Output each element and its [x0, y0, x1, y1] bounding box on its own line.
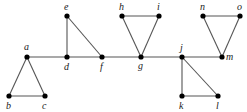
edge-g-h [122, 16, 141, 57]
node-label-c: c [42, 100, 47, 111]
node-j [179, 54, 184, 59]
node-label-h: h [119, 1, 124, 12]
node-label-m: m [226, 51, 233, 62]
node-h [119, 13, 124, 18]
edge-a-b [9, 57, 27, 96]
edge-j-l [182, 57, 218, 96]
edge-g-i [141, 16, 159, 57]
node-label-a: a [24, 41, 29, 52]
node-label-n: n [200, 1, 205, 12]
node-k [179, 93, 184, 98]
node-label-f: f [100, 61, 104, 72]
node-a [24, 54, 29, 59]
node-g [138, 54, 143, 59]
node-label-j: j [178, 42, 183, 53]
node-f [99, 54, 104, 59]
edges-group [9, 16, 240, 96]
node-l [215, 93, 220, 98]
edge-m-n [203, 16, 222, 57]
node-b [6, 93, 11, 98]
node-label-d: d [64, 61, 70, 72]
node-label-k: k [179, 100, 184, 111]
node-o [237, 13, 242, 18]
edge-a-c [27, 57, 45, 96]
node-label-e: e [64, 1, 69, 12]
node-label-i: i [157, 1, 160, 12]
node-label-l: l [216, 100, 219, 111]
node-label-b: b [6, 100, 11, 111]
node-i [156, 13, 161, 18]
node-label-o: o [237, 1, 242, 12]
node-d [64, 54, 69, 59]
edge-e-f [67, 16, 102, 57]
node-label-g: g [138, 60, 143, 71]
graph-diagram: abcdefghijklmno [0, 0, 247, 112]
node-c [42, 93, 47, 98]
node-n [200, 13, 205, 18]
node-e [64, 13, 69, 18]
node-m [219, 54, 224, 59]
